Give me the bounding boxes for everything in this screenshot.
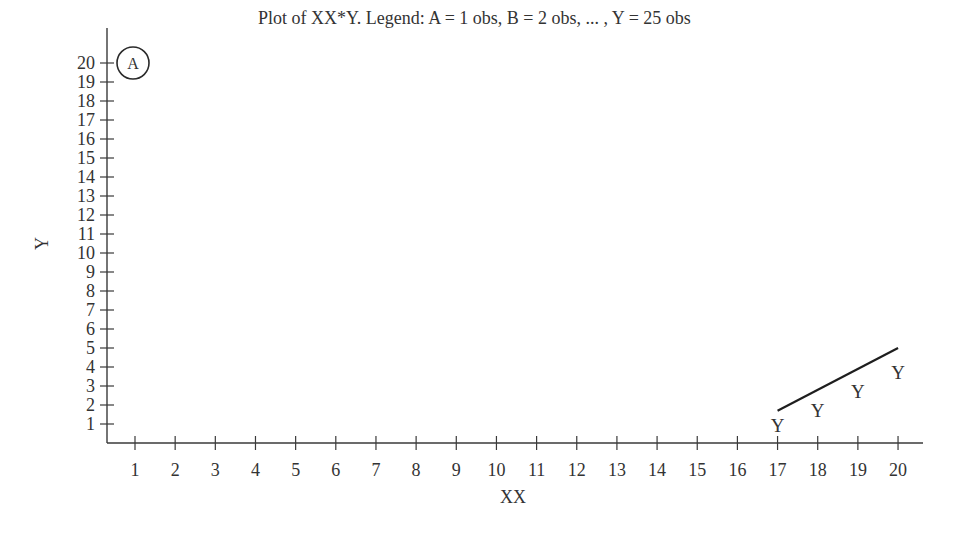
plot-area: 1234567891011121314151617181920123456789…: [0, 0, 956, 534]
x-tick-label: 8: [412, 460, 421, 480]
y-tick-label: 18: [77, 91, 95, 111]
x-tick-label: 19: [849, 460, 867, 480]
y-tick-label: 13: [77, 186, 95, 206]
y-tick-label: 8: [86, 281, 95, 301]
y-tick-label: 10: [77, 243, 95, 263]
y-tick-label: 15: [77, 148, 95, 168]
x-tick-label: 2: [171, 460, 180, 480]
y-tick-label: 14: [77, 167, 95, 187]
point-marker-y: Y: [891, 362, 905, 383]
y-tick-label: 7: [86, 300, 95, 320]
y-tick-label: 4: [86, 357, 95, 377]
y-tick-label: 2: [86, 395, 95, 415]
y-tick-label: 3: [86, 376, 95, 396]
y-tick-label: 16: [77, 129, 95, 149]
x-tick-label: 3: [211, 460, 220, 480]
y-tick-label: 5: [86, 338, 95, 358]
point-marker-y: Y: [851, 381, 865, 402]
y-tick-label: 19: [77, 72, 95, 92]
x-tick-label: 14: [648, 460, 666, 480]
point-marker-y: Y: [811, 400, 825, 421]
y-tick-label: 11: [78, 224, 95, 244]
x-tick-label: 17: [769, 460, 787, 480]
x-tick-label: 9: [452, 460, 461, 480]
x-tick-label: 11: [528, 460, 545, 480]
x-tick-label: 13: [608, 460, 626, 480]
x-tick-label: 10: [487, 460, 505, 480]
x-tick-label: 16: [728, 460, 746, 480]
y-tick-label: 9: [86, 262, 95, 282]
x-tick-label: 20: [889, 460, 907, 480]
y-tick-label: 1: [86, 414, 95, 434]
y-tick-label: 20: [77, 53, 95, 73]
x-tick-label: 18: [809, 460, 827, 480]
y-tick-label: 6: [86, 319, 95, 339]
x-tick-label: 15: [688, 460, 706, 480]
y-tick-label: 17: [77, 110, 95, 130]
x-tick-label: 5: [291, 460, 300, 480]
x-tick-label: 1: [131, 460, 140, 480]
x-tick-label: 7: [371, 460, 380, 480]
y-tick-label: 12: [77, 205, 95, 225]
point-marker-y: Y: [771, 415, 785, 436]
x-tick-label: 4: [251, 460, 260, 480]
data-points: AYYYY: [117, 47, 905, 436]
x-tick-label: 6: [331, 460, 340, 480]
axes: 1234567891011121314151617181920123456789…: [77, 28, 923, 480]
trend-line: [778, 348, 898, 411]
marker-label-a: A: [127, 55, 139, 72]
x-tick-label: 12: [568, 460, 586, 480]
